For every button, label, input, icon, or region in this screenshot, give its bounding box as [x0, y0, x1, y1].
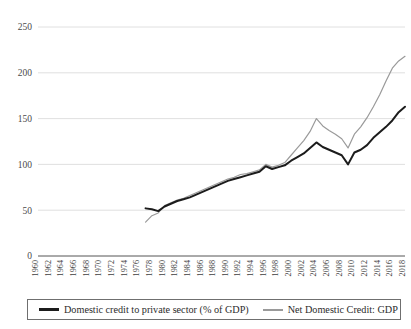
- x-axis-tick-label: 2010: [347, 260, 356, 276]
- x-axis-tick-label: 2008: [335, 260, 344, 276]
- series-line-private-credit: [146, 107, 405, 211]
- x-axis-tick-label: 2016: [385, 260, 394, 276]
- x-axis-tick-label: 1986: [196, 260, 205, 276]
- y-axis-tick-label: 200: [18, 68, 33, 78]
- x-axis-tick-label: 2018: [398, 260, 407, 276]
- x-axis-tick-label: 1984: [183, 260, 192, 276]
- x-axis-tick-label: 1978: [145, 260, 154, 276]
- x-axis-tick-label: 1962: [44, 260, 53, 276]
- legend-label-private-credit: Domestic credit to private sector (% of …: [64, 304, 249, 315]
- y-axis-tick-label: 100: [18, 160, 33, 170]
- x-axis-tick-label: 2000: [284, 260, 293, 276]
- x-axis-tick-label: 1994: [246, 260, 255, 276]
- x-axis-tick-label: 2004: [309, 260, 318, 276]
- legend-item-net-domestic-credit: Net Domestic Credit: GDP: [263, 304, 398, 315]
- x-axis-tick-label: 1982: [170, 260, 179, 276]
- chart-container: 0501001502002501960196219641966196819701…: [0, 0, 411, 329]
- legend-swatch-private-credit-icon: [39, 308, 59, 311]
- y-axis-tick-label: 150: [18, 114, 33, 124]
- x-axis-tick-label: 1976: [132, 260, 141, 276]
- legend-item-private-credit: Domestic credit to private sector (% of …: [39, 304, 249, 315]
- x-axis-tick-label: 1964: [56, 260, 65, 276]
- y-axis-tick-label: 0: [27, 251, 32, 261]
- x-axis-tick-label: 1992: [233, 260, 242, 276]
- legend-label-net-domestic-credit: Net Domestic Credit: GDP: [288, 304, 398, 315]
- x-axis-tick-label: 1990: [221, 260, 230, 276]
- x-axis-tick-label: 1998: [271, 260, 280, 276]
- chart-legend: Domestic credit to private sector (% of …: [27, 299, 401, 320]
- y-axis-tick-label: 50: [23, 206, 33, 216]
- x-axis-tick-label: 2002: [297, 260, 306, 276]
- y-axis-tick-label: 250: [18, 22, 33, 32]
- x-axis-tick-label: 1966: [69, 260, 78, 276]
- x-axis-tick-label: 1972: [107, 260, 116, 276]
- x-axis-tick-label: 1996: [259, 260, 268, 276]
- x-axis-tick-label: 1968: [82, 260, 91, 276]
- x-axis-tick-label: 1988: [208, 260, 217, 276]
- series-line-net-domestic-credit: [146, 56, 405, 222]
- x-axis-tick-label: 2006: [322, 260, 331, 276]
- x-axis-tick-label: 1974: [120, 260, 129, 276]
- legend-swatch-net-domestic-credit-icon: [263, 309, 283, 311]
- x-axis-tick-label: 1970: [94, 260, 103, 276]
- x-axis-tick-label: 1960: [31, 260, 40, 276]
- x-axis-tick-label: 2012: [360, 260, 369, 276]
- x-axis-tick-label: 1980: [158, 260, 167, 276]
- x-axis-tick-label: 2014: [373, 260, 382, 276]
- line-chart-plot: 0501001502002501960196219641966196819701…: [0, 0, 411, 329]
